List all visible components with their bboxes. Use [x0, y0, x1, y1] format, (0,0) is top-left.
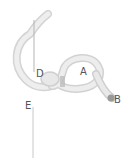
rope-knot-illustration: [0, 0, 132, 167]
label-b: B: [114, 95, 121, 105]
knot-diagram: A B D E: [0, 0, 132, 167]
rope-crossing-shadow: [60, 76, 65, 87]
label-e: E: [25, 101, 31, 111]
label-a: A: [80, 67, 87, 77]
label-d: D: [36, 69, 44, 79]
